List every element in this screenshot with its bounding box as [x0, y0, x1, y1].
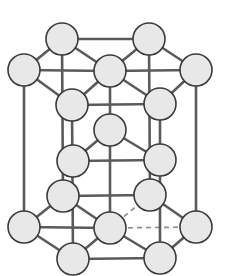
atom-sphere [180, 54, 212, 86]
atom-sphere [180, 211, 212, 243]
atom-sphere [133, 23, 165, 55]
crystal-lattice-diagram [0, 0, 226, 276]
crystal-lattice-figure [0, 0, 226, 276]
atom-sphere [46, 23, 78, 55]
atom-sphere [8, 211, 40, 243]
atom-sphere [57, 243, 89, 275]
atom-sphere [144, 88, 176, 120]
atom-sphere [144, 242, 176, 274]
atom-sphere [8, 54, 40, 86]
atom-sphere [94, 114, 126, 146]
atom-sphere [144, 144, 176, 176]
atom-sphere [94, 55, 126, 87]
atom-sphere [56, 89, 88, 121]
atom-sphere [57, 145, 89, 177]
atom-sphere [47, 180, 79, 212]
atom-sphere [94, 212, 126, 244]
atom-sphere [134, 179, 166, 211]
